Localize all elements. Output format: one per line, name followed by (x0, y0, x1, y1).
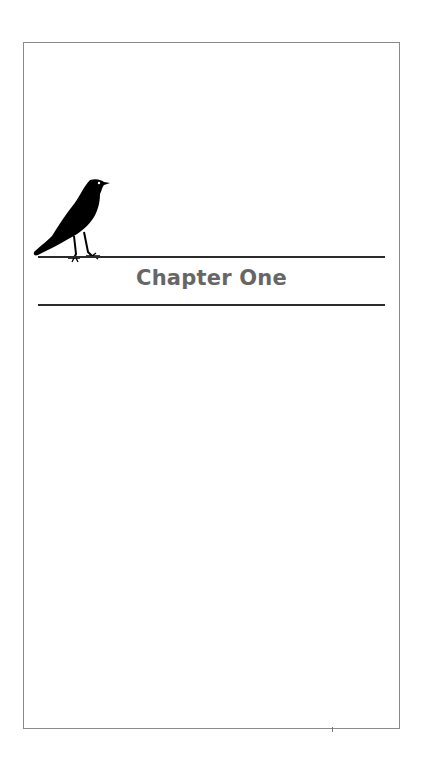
bottom-rule (38, 304, 385, 306)
page-frame (23, 42, 400, 729)
crop-mark (332, 727, 333, 732)
crow-icon (30, 176, 114, 264)
chapter-title: Chapter One (38, 266, 385, 290)
top-rule (38, 256, 385, 258)
